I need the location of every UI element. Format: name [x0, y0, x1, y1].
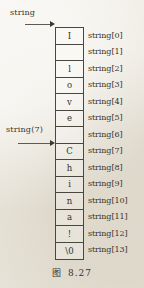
index-label-2: string[2]	[88, 60, 144, 77]
array-cell-11: a	[56, 210, 83, 227]
index-label-10: string[10]	[88, 192, 144, 209]
array-cell-6	[56, 127, 83, 144]
caption-figure-word: 图	[52, 268, 62, 278]
index-label-3: string[3]	[88, 77, 144, 94]
index-label-12: string[12]	[88, 225, 144, 242]
index-label-13: string[13]	[88, 242, 144, 259]
index-label-4: string[4]	[88, 93, 144, 110]
array-cell-2: l	[56, 61, 83, 78]
array-cell-13: \0	[56, 243, 83, 260]
index-label-5: string[5]	[88, 110, 144, 127]
string7-pointer-arrow-line	[18, 143, 53, 144]
array-cell-7: C	[56, 144, 83, 161]
index-label-7: string[7]	[88, 143, 144, 160]
index-label-6: string[6]	[88, 126, 144, 143]
figure-caption: 图8.27	[0, 266, 144, 279]
array-cell-1	[56, 45, 83, 62]
index-label-list: string[0]string[1]string[2]string[3]stri…	[88, 27, 144, 258]
string7-pointer-label: string(7)	[6, 125, 43, 134]
string-pointer-label: string	[10, 8, 35, 17]
index-label-0: string[0]	[88, 27, 144, 44]
figure-diagram: string string(7) I love China!\0 string[…	[0, 0, 144, 288]
array-cell-3: o	[56, 78, 83, 95]
string-pointer-arrow-line	[25, 24, 53, 25]
caption-figure-number: 8.27	[68, 268, 92, 278]
array-cell-8: h	[56, 160, 83, 177]
array-cell-0: I	[56, 28, 83, 45]
array-cell-10: n	[56, 193, 83, 210]
array-cell-12: !	[56, 226, 83, 243]
index-label-11: string[11]	[88, 209, 144, 226]
index-label-9: string[9]	[88, 176, 144, 193]
array-cell-5: e	[56, 111, 83, 128]
array-cell-4: v	[56, 94, 83, 111]
index-label-1: string[1]	[88, 44, 144, 61]
array-cell-9: i	[56, 177, 83, 194]
index-label-8: string[8]	[88, 159, 144, 176]
char-array-box: I love China!\0	[55, 27, 84, 260]
